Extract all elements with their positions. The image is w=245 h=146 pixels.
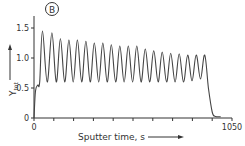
y-axis-label: Ytot xyxy=(8,44,19,97)
x-axis-label-text: Sputter time, s xyxy=(78,132,145,142)
x-arrowhead-icon xyxy=(178,135,184,139)
y-tick-label: 0 xyxy=(24,114,29,123)
y-ticks: 00.51.01.5 xyxy=(16,24,34,123)
series-line xyxy=(34,31,221,118)
sputter-yield-chart: B 00.51.01.5 01050 Ytot Sputter time, s xyxy=(0,0,245,146)
x-tick-label: 0 xyxy=(31,123,36,132)
panel-label-text: B xyxy=(49,5,55,15)
x-axis-label: Sputter time, s xyxy=(78,132,184,142)
panel-label: B xyxy=(46,3,59,16)
x-tick-label: 1050 xyxy=(222,123,242,132)
y-tick-label: 1.5 xyxy=(16,24,29,33)
x-ticks: 01050 xyxy=(31,118,242,132)
y-tick-label: 1.0 xyxy=(16,54,29,63)
y-arrowhead-icon xyxy=(8,44,12,50)
y-axis-label-text: Ytot xyxy=(8,81,19,97)
